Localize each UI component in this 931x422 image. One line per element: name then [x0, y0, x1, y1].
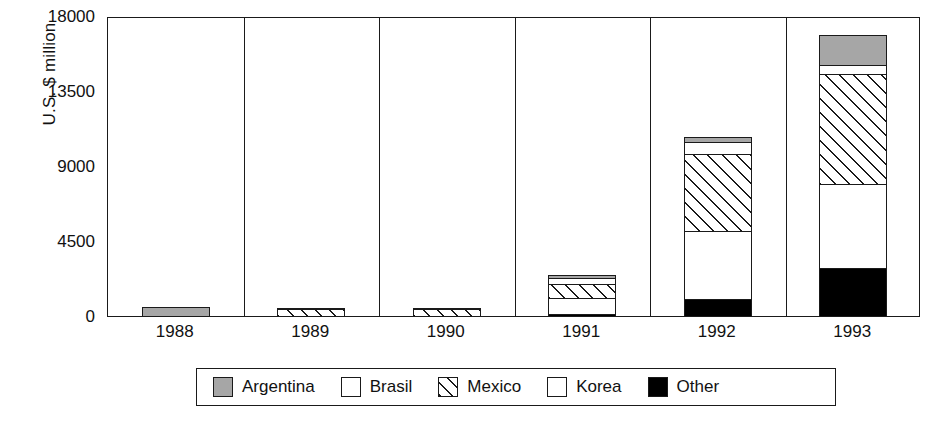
stacked-bar[interactable] [277, 308, 345, 316]
y-axis-tick-label: 0 [86, 307, 95, 327]
y-axis-tick-label: 4500 [57, 232, 95, 252]
bar-segment-mexico[interactable] [684, 154, 752, 232]
x-axis-tick-label: 1992 [649, 322, 785, 342]
x-axis-tick-label: 1988 [107, 322, 243, 342]
bar-segment-mexico[interactable] [819, 74, 887, 185]
bar-segment-other[interactable] [548, 314, 616, 317]
legend-swatch-icon [648, 377, 668, 397]
legend-swatch-icon [547, 377, 567, 397]
chart-panel [515, 18, 651, 316]
legend-item-korea[interactable]: Korea [547, 377, 621, 397]
chart-legend: ArgentinaBrasilMexicoKoreaOther [196, 368, 836, 406]
legend-label: Other [677, 377, 720, 397]
legend-item-mexico[interactable]: Mexico [438, 377, 521, 397]
chart-panel [244, 18, 380, 316]
legend-item-argentina[interactable]: Argentina [213, 377, 315, 397]
bar-segment-argentina[interactable] [819, 35, 887, 67]
legend-swatch-icon [341, 377, 361, 397]
legend-label: Korea [576, 377, 621, 397]
chart-panel [108, 18, 244, 316]
stacked-bar[interactable] [684, 137, 752, 316]
stacked-bar[interactable] [548, 275, 616, 316]
x-axis-tick-label: 1990 [378, 322, 514, 342]
y-axis-tick-label: 9000 [57, 157, 95, 177]
stacked-bar[interactable] [413, 308, 481, 316]
legend-swatch-icon [213, 377, 233, 397]
bar-segment-korea[interactable] [819, 184, 887, 269]
y-axis-tick-label: 13500 [48, 82, 95, 102]
legend-swatch-icon [438, 377, 458, 397]
stacked-bar[interactable] [819, 35, 887, 316]
stacked-bar-chart: U.S. $ million 0450090001350018000 19881… [0, 0, 931, 422]
x-axis-tick-label: 1991 [514, 322, 650, 342]
legend-item-brasil[interactable]: Brasil [341, 377, 413, 397]
legend-label: Brasil [370, 377, 413, 397]
bar-segment-argentina[interactable] [142, 307, 210, 317]
chart-panel [650, 18, 786, 316]
plot-area [107, 17, 920, 317]
x-axis-tick-label: 1993 [785, 322, 921, 342]
x-axis-tick-label: 1989 [243, 322, 379, 342]
bar-segment-korea[interactable] [548, 298, 616, 316]
y-axis: 0450090001350018000 [0, 0, 107, 422]
legend-label: Argentina [242, 377, 315, 397]
bar-segment-korea[interactable] [684, 231, 752, 300]
chart-panel [786, 18, 922, 316]
bar-segment-other[interactable] [819, 268, 887, 317]
bar-segment-other[interactable] [684, 299, 752, 317]
bar-segment-mexico[interactable] [277, 309, 345, 317]
y-axis-tick-label: 18000 [48, 7, 95, 27]
chart-panel [379, 18, 515, 316]
bar-segment-mexico[interactable] [413, 309, 481, 317]
stacked-bar[interactable] [142, 307, 210, 316]
legend-label: Mexico [467, 377, 521, 397]
legend-item-other[interactable]: Other [648, 377, 720, 397]
